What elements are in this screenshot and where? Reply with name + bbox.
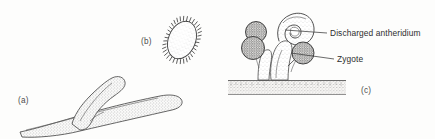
- panel-label-a: (a): [18, 96, 29, 105]
- callout-label-antheridium: Discharged antheridium: [330, 28, 421, 38]
- figure-root: (a): [0, 0, 435, 139]
- zygote-right: [291, 42, 314, 72]
- antheridium-inner-void: [290, 27, 299, 36]
- panel-b-spore: (b): [141, 11, 207, 69]
- panel-label-c: (c): [361, 86, 371, 95]
- substrate: [228, 80, 346, 95]
- callout-label-zygote: Zygote: [337, 54, 363, 64]
- discharged-antheridium: [278, 13, 314, 45]
- figure-svg: (a): [0, 0, 435, 139]
- panel-a-hypha: (a): [18, 77, 182, 138]
- stalk-main: [271, 41, 292, 80]
- panel-label-b: (b): [141, 37, 152, 46]
